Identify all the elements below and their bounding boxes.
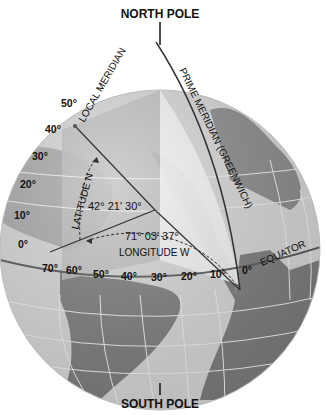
lat-tick: 20° <box>20 178 36 190</box>
lon-tick: 20° <box>181 270 197 282</box>
lon-tick: 50° <box>93 268 109 280</box>
lon-tick: 70° <box>42 262 58 274</box>
lat-tick: 50° <box>61 97 77 109</box>
lon-tick: 10° <box>210 268 226 280</box>
lon-tick: 30° <box>151 271 167 283</box>
lon-tick: 0° <box>242 264 252 276</box>
lat-tick: 30° <box>32 150 48 162</box>
longitude-value: 71° 03' 37° <box>125 230 179 242</box>
lon-tick: 40° <box>121 270 137 282</box>
lat-tick: 10° <box>14 209 30 221</box>
lon-tick: 60° <box>66 264 82 276</box>
north-pole-label: NORTH POLE <box>121 7 200 21</box>
lat-tick: 40° <box>45 123 61 135</box>
latitude-value: 42° 21' 30° <box>88 200 142 212</box>
south-pole-label: SOUTH POLE <box>121 397 199 411</box>
lat-tick: 0° <box>18 238 28 250</box>
globe-diagram: NORTH POLE SOUTH POLE LOCAL MERIDIAN PRI… <box>0 0 327 415</box>
longitude-label: LONGITUDE W <box>119 247 190 258</box>
